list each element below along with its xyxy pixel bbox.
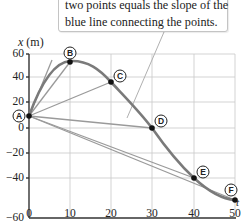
x-tick-50: 50	[225, 207, 245, 219]
y-tick-0: 0	[0, 121, 24, 133]
x-tick-0: 0	[19, 207, 39, 219]
callout-line-1: two points equals the slope of the	[65, 0, 223, 14]
x-axis-label: t	[236, 196, 239, 208]
point-labels: A B C D E F	[16, 48, 234, 195]
point-label-c: C	[117, 71, 123, 81]
y-tick-neg20: −20	[0, 146, 24, 158]
point-label-e: E	[200, 167, 206, 177]
y-axis-unit: (m)	[23, 35, 43, 49]
grid	[29, 54, 235, 218]
callout-box: two points equals the slope of the blue …	[58, 0, 228, 32]
y-tick-20: 20	[0, 95, 24, 107]
point-label-f: F	[228, 185, 233, 195]
x-tick-10: 10	[60, 207, 80, 219]
x-tick-30: 30	[142, 207, 162, 219]
x-tick-20: 20	[101, 207, 121, 219]
secant-lines	[29, 60, 235, 200]
point-label-a: A	[16, 111, 22, 121]
y-tick-40: 40	[0, 70, 24, 82]
position-curve	[29, 61, 235, 200]
y-tick-60: 60	[0, 47, 24, 59]
chart-canvas: A B C D E F	[0, 0, 245, 224]
callout-line-2: blue line connecting the points.	[65, 14, 223, 31]
y-tick-neg40: −40	[0, 171, 24, 183]
point-label-b: B	[67, 48, 73, 58]
x-tick-40: 40	[184, 207, 204, 219]
data-points	[26, 59, 238, 203]
point-label-d: D	[158, 116, 164, 126]
